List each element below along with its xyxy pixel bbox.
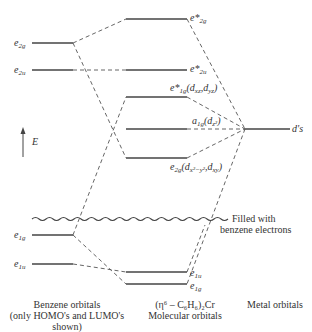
label-metal-d: d's [292,124,303,134]
label-mo-e1g: e1g [190,281,201,294]
arrow-up-icon [21,127,26,157]
label-benzene-e2u: e2u [14,65,25,78]
energy-axis-label: E [32,137,38,147]
caption-molecular-orbitals: (η⁶ – C₆H₆)₂Cr Molecular orbitals [140,299,230,321]
filled-annotation: Filled with benzene electrons [232,213,291,235]
filled-boundary-wavy-line [32,218,228,221]
caption-benzene-orbitals: Benzene orbitals (only HOMO's and LUMO's… [2,299,132,332]
label-mo-a1g: a1g(dz²) [192,116,221,129]
caption-metal-orbitals: Metal orbitals [238,299,312,310]
label-mo-e1g-star: e*1g(dxz,dyz) [170,83,217,96]
label-benzene-e1g: e1g [14,230,25,243]
label-mo-e2g-star: e*2g [190,13,206,26]
label-mo-e2g: e2g(dx²−y²,dxy) [170,162,222,175]
label-benzene-e2g: e2g [14,38,25,51]
label-mo-e2u-star: e*2u [190,64,206,77]
label-benzene-e1u: e1u [14,259,25,272]
